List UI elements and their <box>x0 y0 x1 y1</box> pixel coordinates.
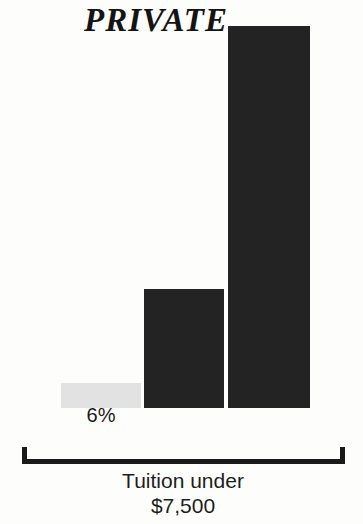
category-label-line-1: Tuition under <box>122 469 244 492</box>
category-label-line-2: $7,500 <box>43 493 323 518</box>
bar-value-label-1: 6% <box>61 405 141 425</box>
chart-page: PRIVATE 6% 29% 99% Tuition under $7,500 <box>0 0 363 524</box>
bar-1 <box>61 383 141 408</box>
bar-2 <box>144 289 224 408</box>
plot-area: 6% 29% 99% <box>0 0 363 470</box>
x-axis-category-label: Tuition under $7,500 <box>43 468 323 518</box>
x-axis-right-cap <box>340 447 345 461</box>
bar-3 <box>228 26 310 408</box>
x-axis-left-cap <box>22 447 27 461</box>
x-axis-baseline <box>22 459 345 464</box>
